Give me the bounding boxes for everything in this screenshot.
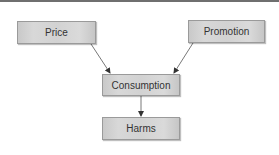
node-promotion-label: Promotion [204, 26, 250, 37]
node-price-label: Price [45, 27, 68, 38]
arrow-promotion-to-consumption [174, 43, 193, 73]
node-consumption: Consumption [102, 74, 180, 96]
node-price: Price [17, 21, 96, 44]
node-promotion: Promotion [188, 20, 265, 43]
node-harms: Harms [102, 117, 180, 140]
node-harms-label: Harms [126, 123, 155, 134]
node-consumption-label: Consumption [112, 80, 171, 91]
arrow-price-to-consumption [91, 44, 110, 73]
